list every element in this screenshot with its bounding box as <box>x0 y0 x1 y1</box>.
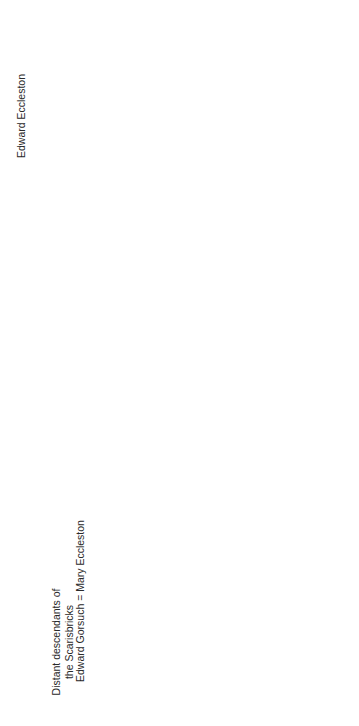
distant-descendants: Distant descendants of the Scarisbricks <box>50 589 76 696</box>
edward-eccleston: Edward Eccleston <box>15 74 28 158</box>
family-tree: Distant descendants of the Scarisbricks … <box>0 0 359 726</box>
edward-gorsuch-mary-eccleston: Edward Gorsuch = Mary Eccleston <box>74 520 87 682</box>
